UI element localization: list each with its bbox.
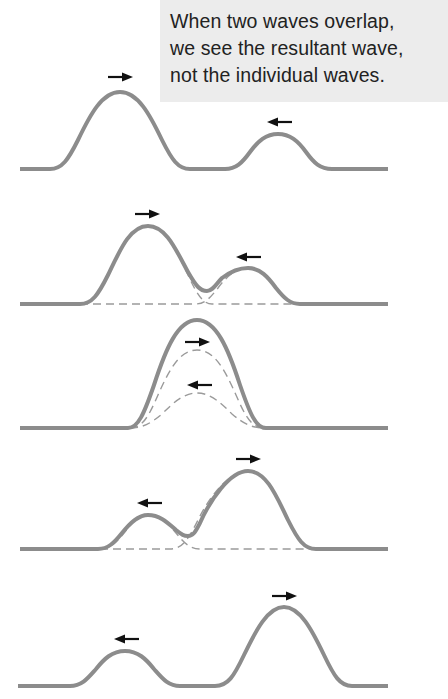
resultant-wave — [20, 226, 388, 304]
arrow-right-icon — [135, 210, 160, 219]
resultant-wave — [20, 92, 388, 169]
arrow-left-icon — [187, 381, 212, 390]
panel-2 — [20, 210, 388, 305]
panel-4 — [20, 455, 388, 550]
resultant-wave — [20, 320, 388, 428]
resultant-wave — [18, 607, 388, 686]
arrow-left-icon — [267, 118, 292, 127]
arrow-left-icon — [114, 635, 139, 644]
arrow-right-icon — [185, 338, 210, 347]
arrow-right-icon — [236, 455, 261, 464]
panel-5 — [18, 592, 388, 687]
wave-superposition-diagram — [0, 0, 448, 699]
arrow-left-icon — [236, 253, 261, 262]
arrow-right-icon — [272, 592, 297, 601]
arrow-left-icon — [137, 499, 162, 508]
arrow-right-icon — [108, 73, 133, 82]
panel-1 — [20, 73, 388, 170]
panel-3 — [20, 320, 388, 428]
